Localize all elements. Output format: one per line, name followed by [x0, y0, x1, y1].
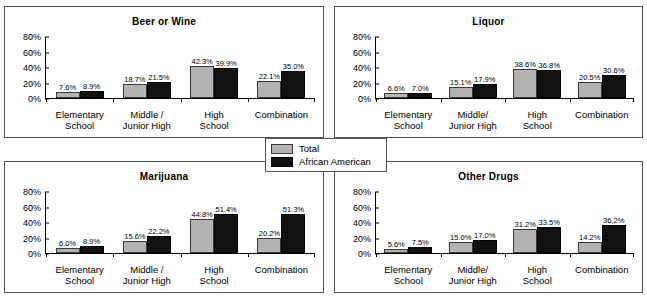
bar-pair: 15.1%17.9%: [449, 37, 497, 98]
bar-value-label: 21.5%: [148, 73, 169, 82]
bar-pair: 14.2%36.2%: [578, 192, 626, 253]
y-axis-tick-label: 40%: [353, 218, 375, 228]
chart-panel-liquor: Liquor80%60%40%20%0%6.6%7.0%15.1%17.9%38…: [334, 6, 643, 138]
bar-pair: 22.1%35.0%: [257, 37, 305, 98]
category-label-line: Middle/: [441, 109, 506, 120]
bar-pair: 6.6%7.0%: [384, 37, 432, 98]
bar-value-label: 38.6%: [515, 60, 536, 69]
bar-value-label: 17.0%: [474, 231, 495, 240]
bar-group: 5.6%7.5%: [376, 192, 441, 253]
bar-value-label: 22.1%: [259, 72, 280, 81]
bar-african-american: 7.5%: [408, 247, 432, 253]
bar-group: 44.8%51.4%: [181, 192, 248, 253]
bar-total: 18.7%: [123, 84, 147, 98]
category-label-line: High: [505, 264, 570, 275]
bar-value-label: 36.8%: [539, 61, 560, 70]
x-axis-group-tick: [570, 98, 571, 102]
bar-value-label: 22.2%: [148, 227, 169, 236]
x-axis-group-tick: [46, 98, 47, 102]
bar-value-label: 51.4%: [215, 205, 236, 214]
category-label-line: High: [181, 109, 248, 120]
bar-group: 22.1%35.0%: [248, 37, 315, 98]
bar-groups: 6.6%7.0%15.1%17.9%38.6%36.8%20.5%30.6%: [376, 37, 634, 98]
bar-total: 7.6%: [56, 92, 80, 98]
x-axis-category-label: Middle/Junior High: [441, 264, 506, 286]
x-axis-category-label: ElementarySchool: [376, 109, 441, 131]
bar-value-label: 8.9%: [83, 82, 100, 91]
y-axis-tick-label: 0%: [358, 94, 375, 104]
bar-group: 6.0%8.9%: [46, 192, 113, 253]
x-axis-group-tick: [113, 253, 114, 257]
bar-african-american: 8.9%: [80, 91, 104, 98]
legend-label: Total: [299, 143, 319, 154]
bar-pair: 20.2%51.3%: [257, 192, 305, 253]
category-label-line: Middle /: [113, 109, 180, 120]
bar-total: 15.0%: [449, 242, 473, 253]
plot-area-liquor: 80%60%40%20%0%6.6%7.0%15.1%17.9%38.6%36.…: [375, 37, 634, 99]
bar-african-american: 21.5%: [147, 82, 171, 98]
bar-value-label: 8.9%: [83, 237, 100, 246]
category-label-line: School: [505, 120, 570, 131]
bar-value-label: 42.3%: [191, 57, 212, 66]
bar-group: 15.6%22.2%: [113, 192, 180, 253]
category-label-line: Junior High: [441, 120, 506, 131]
plot-area-marijuana: 80%60%40%20%0%6.0%8.9%15.6%22.2%44.8%51.…: [45, 192, 315, 254]
y-axis-tick-label: 80%: [353, 187, 375, 197]
x-axis-group-tick: [376, 98, 377, 102]
y-axis-tick-label: 40%: [353, 63, 375, 73]
bar-total: 38.6%: [513, 69, 537, 98]
category-label-line: Combination: [570, 264, 635, 275]
bar-group: 15.0%17.0%: [441, 192, 506, 253]
bar-value-label: 36.2%: [603, 216, 624, 225]
bar-pair: 20.5%30.6%: [578, 37, 626, 98]
panel-title-other-drugs: Other Drugs: [335, 171, 642, 182]
x-axis-category-label: Middle /Junior High: [113, 264, 180, 286]
bar-groups: 5.6%7.5%15.0%17.0%31.2%33.5%14.2%36.2%: [376, 192, 634, 253]
bar-value-label: 15.1%: [450, 78, 471, 87]
legend-label: African American: [299, 156, 371, 167]
x-axis-group-tick: [113, 98, 114, 102]
x-axis-group-tick: [46, 253, 47, 257]
bar-value-label: 6.6%: [388, 84, 405, 93]
bar-value-label: 14.2%: [579, 233, 600, 242]
bar-pair: 38.6%36.8%: [513, 37, 561, 98]
x-axis-group-tick: [441, 253, 442, 257]
bar-african-american: 17.9%: [473, 84, 497, 98]
legend-entry: Total: [271, 142, 381, 155]
bar-african-american: 22.2%: [147, 236, 171, 253]
total-swatch: [271, 144, 293, 154]
x-axis-category-labels: ElementarySchoolMiddle/Junior HighHighSc…: [376, 109, 634, 131]
y-axis-tick-label: 80%: [23, 187, 45, 197]
plot-area-beer-or-wine: 80%60%40%20%0%7.6%8.9%18.7%21.5%42.3%39.…: [45, 37, 315, 99]
chart-panel-marijuana: Marijuana80%60%40%20%0%6.0%8.9%15.6%22.2…: [4, 161, 324, 293]
bar-group: 6.6%7.0%: [376, 37, 441, 98]
category-label-line: School: [46, 275, 113, 286]
x-axis-group-tick: [633, 98, 634, 102]
bar-value-label: 20.5%: [579, 73, 600, 82]
bar-total: 6.0%: [56, 248, 80, 253]
x-axis-group-tick: [314, 253, 315, 257]
chart-panel-other-drugs: Other Drugs80%60%40%20%0%5.6%7.5%15.0%17…: [334, 161, 643, 293]
x-axis-group-tick: [633, 253, 634, 257]
category-label-line: Elementary: [376, 109, 441, 120]
category-label-line: Junior High: [113, 275, 180, 286]
y-axis-tick-label: 60%: [353, 203, 375, 213]
bar-group: 31.2%33.5%: [505, 192, 570, 253]
x-axis-category-label: ElementarySchool: [46, 264, 113, 286]
bar-total: 6.6%: [384, 93, 408, 98]
y-axis-tick-label: 20%: [23, 234, 45, 244]
y-axis-tick-label: 80%: [23, 32, 45, 42]
x-axis-category-label: Combination: [570, 109, 635, 131]
panel-title-marijuana: Marijuana: [5, 171, 323, 182]
panel-title-liquor: Liquor: [335, 16, 642, 27]
bar-total: 15.6%: [123, 241, 147, 253]
y-axis-tick-label: 20%: [353, 234, 375, 244]
bar-value-label: 33.5%: [539, 218, 560, 227]
bar-value-label: 15.0%: [450, 233, 471, 242]
bar-total: 31.2%: [513, 229, 537, 253]
category-label-line: Junior High: [441, 275, 506, 286]
bar-value-label: 30.6%: [603, 66, 624, 75]
bar-total: 42.3%: [190, 66, 214, 98]
x-axis-category-label: Combination: [248, 264, 315, 286]
bar-value-label: 5.6%: [388, 240, 405, 249]
